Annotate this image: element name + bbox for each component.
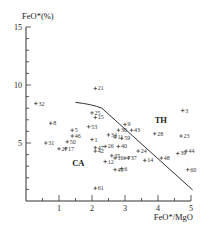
data-point: 12 xyxy=(103,159,113,165)
point-label: 32 xyxy=(38,101,44,107)
data-point: 21 xyxy=(94,85,104,91)
point-label: 16 xyxy=(118,155,124,161)
data-point: 24 xyxy=(136,148,146,154)
point-label: 27 xyxy=(62,146,68,152)
data-point: 53 xyxy=(87,124,97,130)
data-point: 27 xyxy=(57,146,67,152)
region-label-ca: CA xyxy=(72,158,85,168)
x-tick-label: 2 xyxy=(90,204,94,213)
data-point: 23 xyxy=(179,133,189,139)
region-label-th: TH xyxy=(155,115,168,125)
point-label: 1 xyxy=(95,137,98,143)
data-point: 3 xyxy=(181,108,188,114)
point-label: 37 xyxy=(131,155,137,161)
y-tick-label: 5 xyxy=(18,139,22,148)
data-point: 50 xyxy=(65,139,75,145)
scatter-chart: 5101512345 32218315465017272515531474226… xyxy=(0,0,206,235)
x-tick-label: 1 xyxy=(57,204,61,213)
point-label: 49 xyxy=(118,167,124,173)
data-point: 60 xyxy=(186,167,196,173)
x-axis-title: FeO*/MgO xyxy=(154,212,193,222)
point-label: 26 xyxy=(108,143,114,149)
point-label: 50 xyxy=(70,139,76,145)
point-label: 40 xyxy=(121,143,127,149)
point-label: 15 xyxy=(98,114,104,120)
point-label: 8 xyxy=(53,120,56,126)
point-label: 59 xyxy=(124,135,130,141)
divider-curve xyxy=(76,102,193,190)
point-label: 9 xyxy=(128,121,131,127)
point-label: 6 xyxy=(124,166,127,172)
point-label: 24 xyxy=(141,148,147,154)
y-axis-title: FeO*(%) xyxy=(22,11,54,21)
point-label: 11 xyxy=(118,134,124,140)
data-point: 1 xyxy=(90,137,97,143)
point-label: 17 xyxy=(68,146,74,152)
point-label: 3 xyxy=(185,108,188,114)
point-label: 60 xyxy=(190,167,196,173)
data-point: 43 xyxy=(130,127,140,133)
data-point: 32 xyxy=(34,101,44,107)
data-point: 48 xyxy=(160,155,170,161)
y-tick-label: 10 xyxy=(14,81,22,90)
x-tick-label: 3 xyxy=(123,204,127,213)
y-tick-label: 15 xyxy=(14,23,22,32)
data-point: 8 xyxy=(49,120,56,126)
point-label: 31 xyxy=(48,140,54,146)
point-label: 48 xyxy=(164,155,170,161)
point-label: 42 xyxy=(98,148,104,154)
point-label: 53 xyxy=(91,124,97,130)
data-points: 3221831546501727251553147422634361194359… xyxy=(34,85,196,191)
point-label: 43 xyxy=(134,127,140,133)
data-point: 14 xyxy=(143,157,153,163)
point-label: 14 xyxy=(147,157,153,163)
point-label: 23 xyxy=(184,133,190,139)
data-point: 28 xyxy=(153,131,163,137)
th-ca-boundary-line xyxy=(76,102,193,190)
data-point: 36 xyxy=(117,127,127,133)
data-point: 31 xyxy=(44,140,54,146)
data-point: 40 xyxy=(117,143,127,149)
data-point: 61 xyxy=(94,185,104,191)
point-label: 12 xyxy=(108,159,114,165)
data-point: 26 xyxy=(103,143,113,149)
point-label: 21 xyxy=(98,85,104,91)
point-label: 61 xyxy=(98,185,104,191)
point-label: 36 xyxy=(121,127,127,133)
point-label: 44 xyxy=(189,148,195,154)
point-label: 28 xyxy=(157,131,163,137)
data-point: 49 xyxy=(113,167,123,173)
